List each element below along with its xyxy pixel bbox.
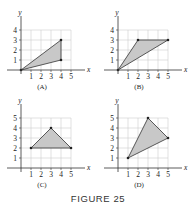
- panel-a: 123451234xy(A): [7, 8, 91, 91]
- x-tick-label: 4: [59, 170, 63, 179]
- x-tick-label: 5: [166, 72, 170, 81]
- y-tick-label: 1: [110, 56, 114, 65]
- x-tick-label: 4: [156, 72, 160, 81]
- x-tick-label: 5: [166, 170, 170, 179]
- x-tick-label: 2: [39, 72, 43, 81]
- x-axis-label: x: [86, 65, 91, 74]
- y-axis-label: y: [114, 96, 119, 105]
- y-tick-label: 5: [13, 114, 17, 123]
- x-tick-label: 4: [59, 72, 63, 81]
- x-tick-label: 2: [136, 170, 140, 179]
- y-tick-label: 1: [13, 154, 17, 163]
- panel-d: 1234512345xy(D): [104, 96, 188, 189]
- y-tick-label: 1: [13, 56, 17, 65]
- vertex-dot: [60, 59, 63, 62]
- vertex-dot: [147, 117, 150, 120]
- x-tick-label: 2: [39, 170, 43, 179]
- y-tick-label: 4: [110, 26, 114, 35]
- y-axis-label: y: [17, 8, 22, 17]
- y-tick-label: 2: [13, 46, 17, 55]
- x-tick-label: 4: [156, 170, 160, 179]
- y-tick-label: 3: [110, 36, 114, 45]
- x-tick-label: 1: [29, 170, 33, 179]
- panel-c: 1234512345xy(C): [7, 96, 91, 189]
- y-tick-label: 4: [110, 124, 114, 133]
- vertex-dot: [60, 39, 63, 42]
- y-axis-label: y: [114, 8, 119, 17]
- panel-label: (B): [134, 83, 144, 91]
- x-tick-label: 1: [126, 170, 130, 179]
- vertex-dot: [167, 39, 170, 42]
- x-axis-label: x: [86, 163, 91, 172]
- shaded-triangle: [118, 40, 168, 70]
- figure-25-diagram: 123451234xy(A)123451234xy(B)1234512345xy…: [0, 0, 196, 209]
- x-tick-label: 3: [49, 72, 53, 81]
- y-tick-label: 1: [110, 154, 114, 163]
- x-tick-label: 3: [146, 72, 150, 81]
- y-axis-label: y: [17, 96, 22, 105]
- figure-caption: FIGURE 25: [0, 193, 196, 204]
- x-tick-label: 3: [146, 170, 150, 179]
- y-tick-label: 4: [13, 26, 17, 35]
- x-tick-label: 1: [126, 72, 130, 81]
- vertex-dot: [137, 39, 140, 42]
- y-tick-label: 5: [110, 114, 114, 123]
- x-tick-label: 1: [29, 72, 33, 81]
- panel-b: 123451234xy(B): [104, 8, 188, 91]
- y-tick-label: 4: [13, 124, 17, 133]
- vertex-dot: [127, 157, 130, 160]
- y-tick-label: 3: [110, 134, 114, 143]
- y-tick-label: 3: [13, 134, 17, 143]
- x-tick-label: 2: [136, 72, 140, 81]
- panel-label: (A): [37, 83, 47, 91]
- y-tick-label: 2: [13, 144, 17, 153]
- vertex-dot: [70, 147, 73, 150]
- x-tick-label: 5: [69, 72, 73, 81]
- vertex-dot: [30, 147, 33, 150]
- vertex-dot: [50, 127, 53, 130]
- x-axis-label: x: [183, 65, 188, 74]
- vertex-dot: [167, 137, 170, 140]
- y-tick-label: 3: [13, 36, 17, 45]
- x-axis-label: x: [183, 163, 188, 172]
- y-tick-label: 2: [110, 46, 114, 55]
- panel-label: (C): [37, 181, 47, 189]
- panel-label: (D): [134, 181, 144, 189]
- x-tick-label: 3: [49, 170, 53, 179]
- y-tick-label: 2: [110, 144, 114, 153]
- x-tick-label: 5: [69, 170, 73, 179]
